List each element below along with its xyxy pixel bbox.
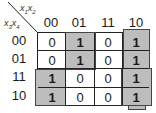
cell: 1 (66, 51, 94, 69)
cell: 0 (94, 69, 122, 87)
column-header: 01 (65, 15, 93, 30)
cell: 1 (122, 51, 150, 69)
top-variable-label: x1x2 (20, 3, 36, 15)
cell: 1 (122, 88, 150, 106)
row-header: 10 (4, 88, 34, 103)
row-header: 00 (4, 33, 34, 48)
cell: 0 (66, 88, 94, 106)
cell: 1 (38, 69, 66, 87)
column-header: 11 (94, 15, 122, 30)
row-header: 01 (4, 51, 34, 66)
cell: 1 (122, 33, 150, 51)
column-header: 00 (37, 15, 65, 30)
cell: 0 (94, 88, 122, 106)
cell: 1 (38, 88, 66, 106)
column-header: 10 (122, 15, 150, 30)
cell: 0 (38, 51, 66, 69)
cell: 0 (66, 69, 94, 87)
row-header: 11 (4, 69, 34, 84)
cell: 0 (94, 51, 122, 69)
cell: 1 (122, 69, 150, 87)
cell: 0 (38, 33, 66, 51)
kmap-grid: 0 1 0 1 0 1 0 1 1 0 0 1 1 0 0 1 (37, 32, 150, 106)
cell: 1 (66, 33, 94, 51)
cell: 0 (94, 33, 122, 51)
left-variable-label: x3x4 (4, 18, 20, 30)
